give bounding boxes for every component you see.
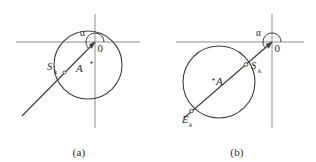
start-point-label-a: S <box>47 61 53 72</box>
panel-b-diagram: α 0 S k A E k <box>158 0 316 162</box>
panel-a: α 0 S k A (a) <box>0 0 158 162</box>
origin-label-a: 0 <box>98 42 104 54</box>
center-dot-b <box>212 78 214 80</box>
start-point-marker-b <box>244 63 248 67</box>
panel-b: α 0 S k A E k (b) <box>158 0 316 162</box>
end-point-subscript-b: k <box>189 121 193 129</box>
start-point-subscript-b: k <box>258 67 262 75</box>
ray-arrowhead-b <box>266 42 272 48</box>
start-point-label-b: S <box>251 60 257 71</box>
caption-b: (b) <box>158 146 316 158</box>
start-point-marker-a <box>63 71 66 74</box>
origin-label-b: 0 <box>275 42 281 54</box>
figure-container: α 0 S k A (a) <box>0 0 316 162</box>
center-label-a: A <box>75 62 83 74</box>
end-point-label-b: E <box>181 114 189 125</box>
caption-a: (a) <box>0 146 158 158</box>
angle-label-a: α <box>80 28 85 38</box>
center-label-b: A <box>215 75 223 87</box>
center-dot-a <box>90 61 92 63</box>
ray-a <box>22 42 95 116</box>
start-point-subscript-a: k <box>54 68 58 76</box>
circle-a <box>54 31 122 99</box>
panel-a-diagram: α 0 S k A <box>0 0 158 162</box>
end-point-marker-b <box>190 109 194 113</box>
angle-label-b: α <box>256 28 261 38</box>
